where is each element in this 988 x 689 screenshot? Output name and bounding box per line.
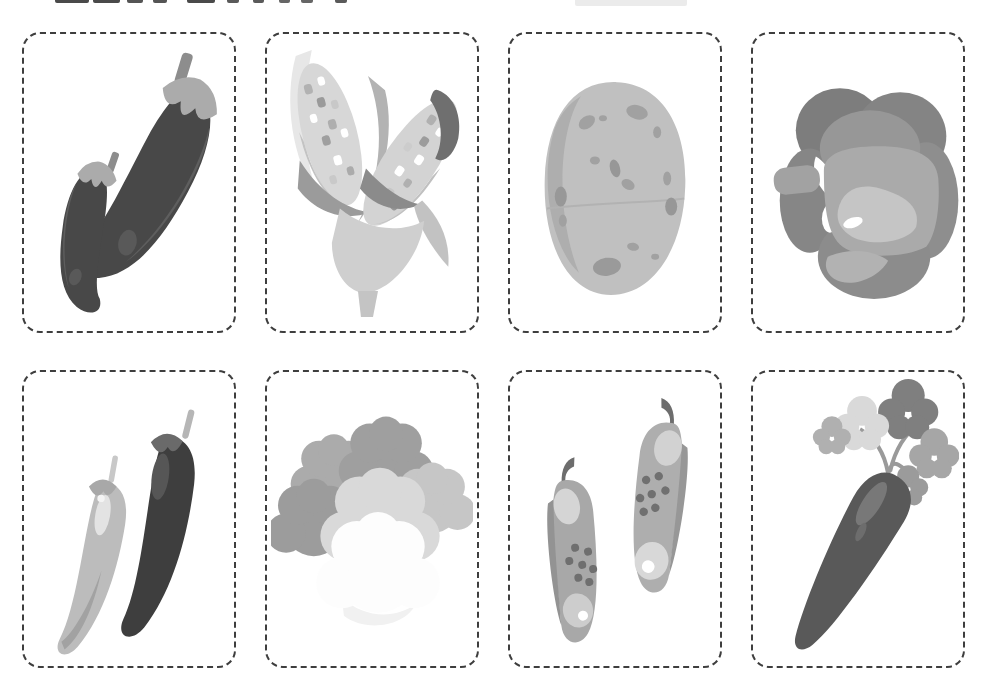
carrot-body — [783, 462, 921, 659]
potato-icon — [514, 42, 716, 323]
card-bell-pepper — [751, 32, 965, 333]
cucumber-left — [531, 455, 615, 644]
bell-pepper-icon — [757, 42, 959, 323]
cropped-title-fragment — [301, 0, 313, 3]
cropped-title-fragment — [127, 0, 143, 3]
potato-body — [545, 82, 686, 295]
card-potato — [508, 32, 722, 333]
cropped-title-fragment — [153, 0, 167, 3]
cauliflower-icon — [271, 379, 473, 660]
cucumber-right — [612, 396, 706, 595]
cropped-title-fragment — [279, 0, 290, 3]
pepper-body — [772, 88, 958, 299]
chili-dark — [121, 406, 197, 638]
cropped-title-fragment — [93, 0, 120, 3]
card-cauliflower — [265, 370, 479, 668]
cropped-title-fragment — [575, 0, 687, 6]
chili-light — [57, 452, 130, 658]
card-cucumber — [508, 370, 722, 668]
card-grid — [22, 32, 965, 668]
chili-pepper-icon — [28, 379, 230, 660]
cucumber-icon — [514, 379, 716, 660]
cropped-title-fragment — [335, 0, 347, 3]
card-corn — [265, 32, 479, 333]
card-chili-pepper — [22, 370, 236, 668]
cropped-title-fragment — [187, 0, 215, 3]
card-eggplant — [22, 32, 236, 333]
card-carrot — [751, 370, 965, 668]
cropped-title-fragment — [55, 0, 89, 3]
cropped-title-fragment — [227, 0, 239, 3]
carrot-icon — [757, 379, 959, 660]
cropped-title-strip — [0, 0, 988, 10]
flashcards-sheet — [0, 0, 988, 689]
corn-icon — [271, 42, 473, 323]
eggplant-icon — [28, 42, 230, 323]
cropped-title-fragment — [253, 0, 264, 3]
